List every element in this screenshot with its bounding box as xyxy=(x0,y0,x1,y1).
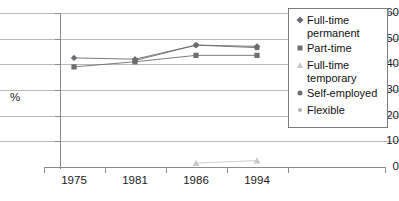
chart-legend: Full-time permanent Part-time Full-time … xyxy=(288,8,388,128)
legend-label: Flexible xyxy=(307,104,345,117)
x-tick-label-1981: 1981 xyxy=(112,174,158,187)
x-tick-mark-start xyxy=(44,167,45,173)
x-tick-mark-end xyxy=(385,167,386,173)
legend-label: Full-time permanent xyxy=(307,14,360,39)
y-axis-label: % xyxy=(10,91,20,103)
triangle-marker-icon xyxy=(293,59,307,73)
square-marker-icon xyxy=(293,42,307,56)
legend-label: Full-time temporary xyxy=(307,59,357,84)
x-tick-label-1994: 1994 xyxy=(234,174,280,187)
y-axis xyxy=(60,13,61,169)
x-tick-label-1986: 1986 xyxy=(173,174,219,187)
x-tick-mark-1 xyxy=(105,167,106,173)
line-chart: 60 50 40 30 20 10 0 % 1975 1981 1986 199… xyxy=(0,0,399,201)
y-tick-mark-10 xyxy=(55,141,60,142)
legend-item-flexible[interactable]: Flexible xyxy=(293,104,383,118)
x-tick-mark-4 xyxy=(288,167,289,173)
y-tick-mark-0 xyxy=(55,167,60,168)
x-tick-mark-2 xyxy=(166,167,167,173)
x-tick-mark-3 xyxy=(227,167,228,173)
y-tick-mark-60 xyxy=(55,13,60,14)
small-circle-marker-icon xyxy=(293,104,307,118)
legend-label: Part-time xyxy=(307,42,352,55)
y-tick-label-10: 10 xyxy=(355,135,399,147)
legend-item-self-employed[interactable]: Self-employed xyxy=(293,87,383,101)
legend-label: Self-employed xyxy=(307,87,377,100)
legend-item-full-time-temporary[interactable]: Full-time temporary xyxy=(293,59,383,84)
y-tick-mark-50 xyxy=(55,39,60,40)
legend-item-full-time-permanent[interactable]: Full-time permanent xyxy=(293,14,383,39)
y-tick-label-0: 0 xyxy=(355,161,399,173)
legend-item-part-time[interactable]: Part-time xyxy=(293,42,383,56)
y-tick-mark-40 xyxy=(55,64,60,65)
x-tick-label-1975: 1975 xyxy=(51,174,97,187)
circle-marker-icon xyxy=(293,87,307,101)
x-axis xyxy=(44,167,385,168)
diamond-marker-icon xyxy=(293,14,307,28)
y-tick-mark-30 xyxy=(55,90,60,91)
y-tick-mark-20 xyxy=(55,116,60,117)
